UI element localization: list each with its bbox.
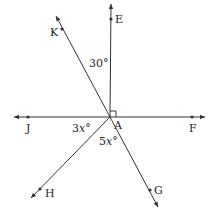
right-angle-mark: [110, 111, 116, 117]
angle-JAH-label: 3x°: [72, 122, 91, 135]
rays-group: [14, 4, 205, 207]
arrowhead-icon: [200, 115, 205, 119]
point-label-g: G: [154, 184, 163, 197]
point-label-k: K: [50, 26, 59, 39]
arrowhead-icon: [109, 4, 113, 9]
arrowhead-icon: [14, 115, 19, 119]
point-label-e: E: [115, 13, 123, 26]
point-label-j: J: [25, 122, 30, 135]
point-label-f: F: [189, 122, 197, 135]
ray-AE: [110, 4, 111, 117]
ray-AH: [31, 117, 110, 198]
point-h: [38, 187, 41, 190]
vertex-label-a: A: [113, 119, 123, 132]
point-k: [60, 27, 63, 30]
point-j: [26, 115, 29, 118]
point-f: [190, 115, 193, 118]
point-e: [109, 17, 112, 20]
point-g: [148, 188, 151, 191]
angle-diagram: EKJFHGA30°3x°5x°: [0, 0, 216, 219]
angle-HAG-label: 5x°: [99, 135, 118, 148]
angle-KAE-label: 30°: [89, 57, 109, 70]
point-label-h: H: [45, 187, 55, 200]
